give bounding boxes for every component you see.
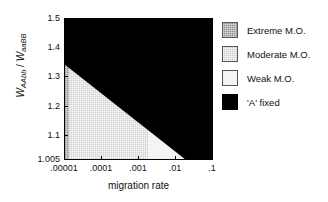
legend-label: Moderate M.O. — [247, 49, 310, 60]
moderate-swatch — [222, 46, 238, 62]
y-axis-label-denominator-symbol: W — [15, 52, 26, 61]
y-axis-label-separator: / — [15, 64, 26, 67]
x-tick-mark — [64, 156, 65, 160]
legend-item-moderate-mo: Moderate M.O. — [222, 42, 328, 66]
y-axis-label-denominator-subscript: aaBB — [19, 34, 28, 52]
phase-diagram-figure: 1.5 1.4 1.3 1.2 1.1 1.005 WAAbb / WaaBB … — [0, 0, 328, 202]
x-tick-label: .1 — [189, 163, 235, 173]
x-tick-mark — [175, 156, 176, 160]
plot-area — [64, 18, 213, 160]
y-tick-mark — [64, 135, 68, 136]
y-axis-label-numerator-symbol: W — [15, 88, 26, 97]
y-tick-mark — [64, 47, 68, 48]
y-tick-label: 1.1 — [16, 130, 60, 140]
y-axis-label: WAAbb / WaaBB — [15, 1, 26, 131]
x-axis-label: migration rate — [64, 180, 213, 191]
y-tick-mark — [64, 18, 68, 19]
legend-item-weak-mo: Weak M.O. — [222, 66, 328, 90]
weak-swatch — [222, 70, 238, 86]
legend-label: Weak M.O. — [247, 73, 294, 84]
legend-label: 'A' fixed — [247, 97, 280, 108]
legend-label: Extreme M.O. — [247, 25, 306, 36]
x-tick-mark — [138, 156, 139, 160]
x-tick-mark — [101, 156, 102, 160]
y-axis-label-numerator-subscript: AAbb — [19, 70, 28, 88]
x-tick-mark — [212, 156, 213, 160]
y-tick-mark — [64, 106, 68, 107]
legend-item-a-fixed: 'A' fixed — [222, 90, 328, 114]
afixed-swatch — [222, 94, 238, 110]
y-tick-mark — [64, 76, 68, 77]
extreme-swatch — [222, 22, 238, 38]
legend: Extreme M.O. Moderate M.O. Weak M.O. 'A'… — [222, 18, 328, 114]
legend-item-extreme-mo: Extreme M.O. — [222, 18, 328, 42]
